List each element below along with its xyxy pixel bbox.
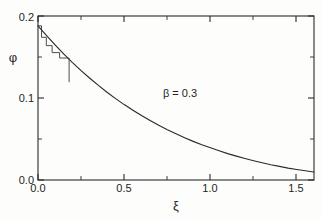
- x-axis-label: ξ: [173, 198, 179, 213]
- y-tick-label-1: 0.1: [19, 92, 34, 104]
- chart-canvas: 0.0 0.5 1.0 1.5 0.0 0.1 0.2 ξ φ β = 0.3: [0, 0, 323, 219]
- beta-annotation: β = 0.3: [163, 87, 197, 99]
- y-axis-label: φ: [9, 50, 17, 65]
- y-tick-label-2: 0.2: [19, 11, 34, 23]
- x-tick-label-1: 0.5: [116, 182, 131, 194]
- x-tick-label-2: 1.0: [202, 182, 217, 194]
- x-tick-label-3: 1.5: [288, 182, 303, 194]
- y-tick-label-0: 0.0: [19, 174, 34, 186]
- figure-container: 0.0 0.5 1.0 1.5 0.0 0.1 0.2 ξ φ β = 0.3: [0, 0, 323, 219]
